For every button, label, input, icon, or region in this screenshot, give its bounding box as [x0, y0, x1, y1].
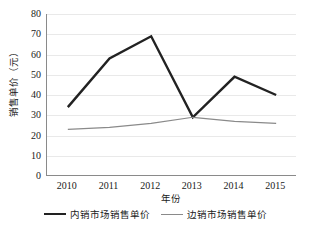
x-axis-tick: 2011 — [87, 180, 131, 191]
legend: 内销市场销售单价边销市场销售单价 — [0, 207, 310, 221]
y-axis-tick: 50 — [15, 70, 41, 80]
legend-item[interactable]: 内销市场销售单价 — [44, 207, 150, 221]
legend-label: 内销市场销售单价 — [70, 207, 150, 221]
x-axis-tick: 2014 — [212, 180, 256, 191]
legend-label: 边销市场销售单价 — [187, 207, 267, 221]
x-axis-tick: 2012 — [128, 180, 172, 191]
series-line — [68, 36, 276, 117]
y-axis-tick: 60 — [15, 50, 41, 60]
x-axis-tick: 2015 — [253, 180, 297, 191]
series-lines — [47, 14, 297, 176]
legend-swatch-icon — [161, 214, 183, 215]
series-line — [68, 117, 276, 129]
line-chart: 销售单价（元） 01020304050607080 20102011201220… — [0, 0, 310, 231]
x-axis-tick: 2013 — [170, 180, 214, 191]
legend-item[interactable]: 边销市场销售单价 — [161, 207, 267, 221]
y-axis-title: 销售单价（元） — [6, 27, 20, 137]
y-axis-tick: 10 — [15, 151, 41, 161]
y-axis-tick: 30 — [15, 110, 41, 120]
y-axis-tick: 20 — [15, 131, 41, 141]
y-axis-tick: 0 — [15, 171, 41, 181]
x-axis-tick: 2010 — [45, 180, 89, 191]
y-axis-tick: 70 — [15, 29, 41, 39]
y-axis-tick: 40 — [15, 90, 41, 100]
x-axis-title: 年份 — [46, 191, 296, 205]
legend-swatch-icon — [44, 213, 66, 215]
plot-area — [46, 14, 296, 176]
y-axis-tick: 80 — [15, 9, 41, 19]
